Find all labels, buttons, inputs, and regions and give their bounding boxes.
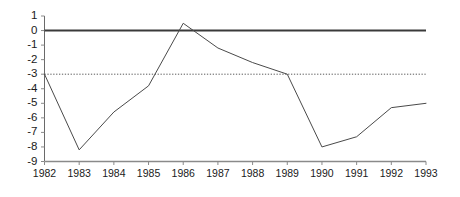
x-tick-labels: 1982198319841985198619871988198919901991… [33,167,438,179]
data-series-group [45,23,427,150]
line-chart: 10-1-2-3-4-5-6-7-8-9 1982198319841985198… [0,0,460,197]
y-tick-label: -1 [27,38,37,50]
data-line-series-1 [45,23,427,150]
x-tick-label: 1983 [68,167,92,179]
x-tick-label: 1992 [380,167,404,179]
y-tick-label: -8 [27,140,37,152]
y-tick-label: -6 [27,111,37,123]
x-axis-group: 1982198319841985198619871988198919901991… [33,162,438,180]
x-tick-label: 1988 [241,167,265,179]
x-tick-label: 1989 [276,167,300,179]
y-tick-label: -9 [27,155,37,167]
x-tick-label: 1990 [310,167,334,179]
chart-container: 10-1-2-3-4-5-6-7-8-9 1982198319841985198… [0,0,460,197]
x-tick-label: 1982 [33,167,57,179]
y-tick-label: -3 [27,67,37,79]
y-tick-label: -5 [27,96,37,108]
x-tick-label: 1985 [137,167,161,179]
x-tick-label: 1984 [102,167,126,179]
reference-lines-group [45,31,427,75]
x-tick-label: 1986 [172,167,196,179]
y-tick-labels: 10-1-2-3-4-5-6-7-8-9 [27,9,38,167]
y-tick-label: -4 [27,82,38,94]
x-tick-label: 1993 [414,167,438,179]
y-tick-marks [41,16,45,162]
x-tick-label: 1987 [206,167,230,179]
y-axis-group: 10-1-2-3-4-5-6-7-8-9 [27,9,44,167]
y-tick-label: -7 [27,125,37,137]
y-tick-label: -2 [27,53,37,65]
y-tick-label: 1 [31,9,37,21]
y-tick-label: 0 [31,24,37,36]
x-tick-label: 1991 [345,167,369,179]
